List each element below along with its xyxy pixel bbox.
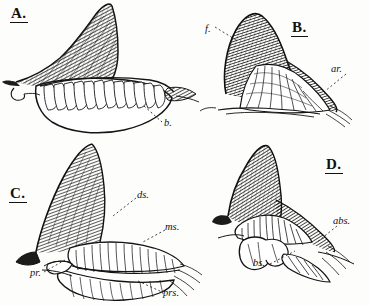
annotation-label-f: f. xyxy=(205,24,211,35)
annotation-label-b: b. xyxy=(164,118,172,129)
annotation-label-ds: ds. xyxy=(137,190,149,201)
leader-line-ar xyxy=(320,72,350,96)
annotation-label-ms: ms. xyxy=(165,222,179,233)
leader-line-abs xyxy=(313,224,341,246)
leader-line-bs xyxy=(268,248,298,268)
annotation-label-ar: ar. xyxy=(331,64,342,75)
leader-line-pr xyxy=(42,258,68,276)
illustration-plate: A. b. xyxy=(0,0,369,306)
annotation-label-bs: bs. xyxy=(253,258,265,269)
leader-line-b xyxy=(142,104,178,130)
panel-letter-b: B. xyxy=(291,20,308,37)
panel-letter-c: C. xyxy=(9,186,27,203)
panel-letter-a: A. xyxy=(10,6,28,23)
leader-line-ms xyxy=(140,228,168,246)
leader-line-f xyxy=(212,24,240,44)
panel-c-figure xyxy=(14,140,214,306)
leader-line-ds xyxy=(110,196,140,220)
annotation-label-prs: prs. xyxy=(163,288,179,299)
annotation-label-abs: abs. xyxy=(333,216,350,227)
panel-letter-d: D. xyxy=(325,157,343,174)
leader-line-prs xyxy=(136,278,166,296)
annotation-label-pr: pr. xyxy=(30,268,41,279)
